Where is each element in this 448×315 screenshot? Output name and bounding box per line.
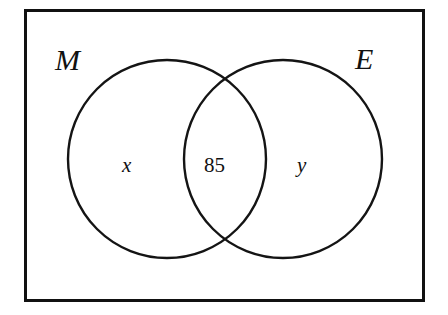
region-label-e-only: y — [297, 155, 306, 176]
venn-diagram-figure: M E x 85 y — [0, 0, 448, 315]
set-label-e: E — [355, 44, 373, 74]
set-circle-m — [68, 60, 266, 258]
region-label-intersection: 85 — [204, 155, 225, 176]
set-label-m: M — [55, 45, 80, 75]
region-label-m-only: x — [122, 155, 131, 176]
